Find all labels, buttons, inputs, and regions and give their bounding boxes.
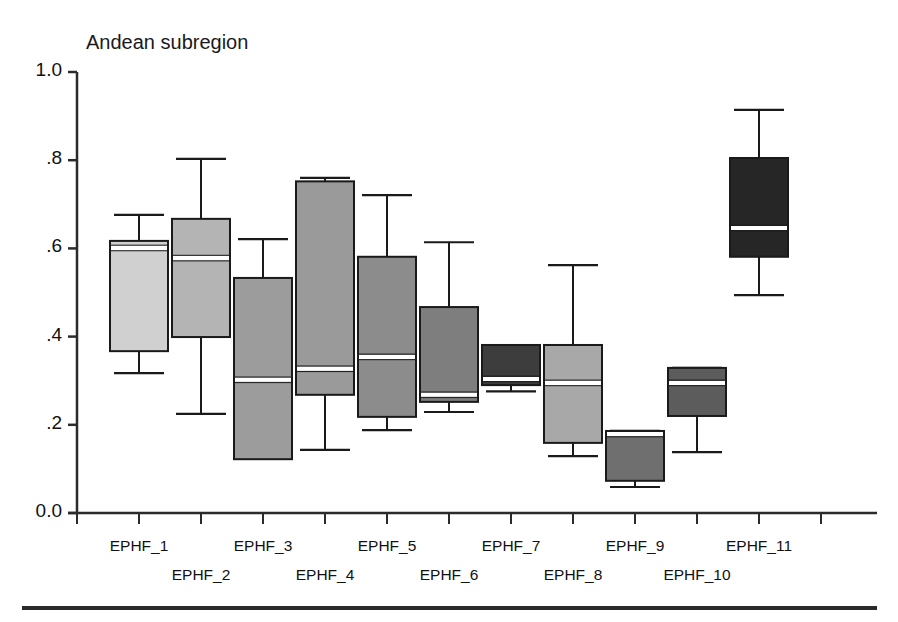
boxplot-svg — [0, 0, 898, 622]
x-tick-label: EPHF_3 — [234, 537, 293, 555]
x-tick-marks — [77, 513, 821, 524]
box-body — [296, 181, 354, 394]
x-tick-label: EPHF_6 — [420, 566, 479, 584]
box-body — [110, 241, 168, 351]
y-tick-marks — [68, 72, 77, 513]
y-tick-label: .6 — [10, 235, 62, 257]
box-plot-item — [606, 431, 664, 487]
box-plot-item — [296, 178, 354, 450]
y-tick-label: 1.0 — [10, 59, 62, 81]
x-tick-label: EPHF_10 — [663, 566, 730, 584]
box-plot-item — [110, 215, 168, 373]
x-tick-label: EPHF_9 — [606, 537, 665, 555]
x-tick-label: EPHF_8 — [544, 566, 603, 584]
x-tick-label: EPHF_5 — [358, 537, 417, 555]
box-body — [420, 307, 478, 402]
x-tick-label: EPHF_2 — [172, 566, 231, 584]
box-plot-item — [730, 110, 788, 295]
box-body — [172, 219, 230, 337]
box-body — [234, 278, 292, 459]
box-plot-item — [172, 159, 230, 414]
box-plot-item — [668, 368, 726, 452]
x-tick-label: EPHF_1 — [110, 537, 169, 555]
box-body — [544, 345, 602, 443]
y-tick-label: .2 — [10, 412, 62, 434]
box-plot-item — [420, 242, 478, 412]
bottom-divider-rule — [22, 606, 877, 610]
y-tick-label: .4 — [10, 324, 62, 346]
y-tick-label: 0.0 — [10, 500, 62, 522]
box-body — [668, 368, 726, 416]
box-body — [606, 431, 664, 481]
box-plot-item — [544, 265, 602, 456]
x-tick-label: EPHF_4 — [296, 566, 355, 584]
box-plot-item — [358, 195, 416, 430]
box-body — [730, 158, 788, 257]
box-plot-item — [482, 345, 540, 391]
x-tick-label: EPHF_7 — [482, 537, 541, 555]
y-tick-label: .8 — [10, 147, 62, 169]
box-plot-series — [110, 110, 788, 487]
x-tick-label: EPHF_11 — [726, 537, 792, 555]
figure-canvas: Andean subregion 1.0.8.6.4.20.0 EPHF_1EP… — [0, 0, 898, 622]
box-body — [358, 257, 416, 417]
box-plot-item — [234, 239, 292, 459]
